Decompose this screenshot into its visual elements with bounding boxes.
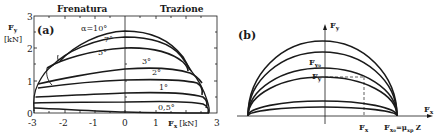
curve-alpha-1 xyxy=(36,93,207,108)
fy0-label: Fy₀ xyxy=(309,57,321,69)
x-ticks-a xyxy=(34,16,201,113)
curve-label: 5° xyxy=(98,48,107,57)
ellipse-curve-6 xyxy=(248,107,397,116)
x-tick-label: -2 xyxy=(59,118,68,128)
fy-label: Fy xyxy=(312,71,322,83)
curve-label: 1° xyxy=(159,83,168,92)
curves-a xyxy=(34,31,210,113)
x-tick-label: 1 xyxy=(153,118,159,128)
fx-label: Fx xyxy=(359,122,369,133)
panel-b: (b) Fy Fx Fy₀ Fy Fx Fx₀=μxp Z xyxy=(237,20,434,134)
title-trazione: Trazione xyxy=(160,4,204,14)
figure: 3 2 1 0 -3 -2 -1 0 1 3 Fy [kN] Fx[kN] Fr… xyxy=(0,0,443,140)
ellipse-curve-5 xyxy=(248,101,397,116)
y-tick-label: 2 xyxy=(27,44,33,54)
panel-tag-a: (a) xyxy=(37,24,55,37)
y-tick-label: 1 xyxy=(27,77,33,87)
curve-label: 3° xyxy=(142,57,151,66)
x-axis-label-a: Fx[kN] xyxy=(168,118,197,129)
curve-alpha-3 xyxy=(38,68,202,84)
y-tick-label: 3 xyxy=(27,12,33,22)
x-tick-label: -1 xyxy=(89,118,98,128)
title-frenatura: Frenatura xyxy=(57,4,108,14)
curve-label: 7° xyxy=(104,35,113,44)
x-tick-label: 3 xyxy=(214,118,220,128)
envelope-left xyxy=(34,66,52,111)
curve-label: 0,5° xyxy=(158,103,175,112)
fx0-label: Fx₀=μxp Z xyxy=(384,122,421,134)
y-axis-label-b: Fy xyxy=(330,20,340,32)
panel-tag-b: (b) xyxy=(238,29,256,42)
y-ticks-a xyxy=(34,32,217,97)
curve-alpha-0 xyxy=(34,108,209,113)
y-axis-label-a: Fy xyxy=(8,22,18,34)
x-tick-label: 0 xyxy=(122,118,128,128)
curve-label: α=10° xyxy=(81,24,107,33)
panel-a: 3 2 1 0 -3 -2 -1 0 1 3 Fy [kN] Fx[kN] Fr… xyxy=(4,4,220,129)
curve-alpha-5 xyxy=(47,48,188,71)
x-axis-label-b: Fx xyxy=(424,104,434,115)
curve-label: 2° xyxy=(152,68,161,77)
x-tick-label: -3 xyxy=(28,118,37,128)
y-axis-arrow-icon xyxy=(323,24,327,30)
y-axis-unit-a: [kN] xyxy=(4,35,22,44)
curves-b xyxy=(248,41,397,116)
